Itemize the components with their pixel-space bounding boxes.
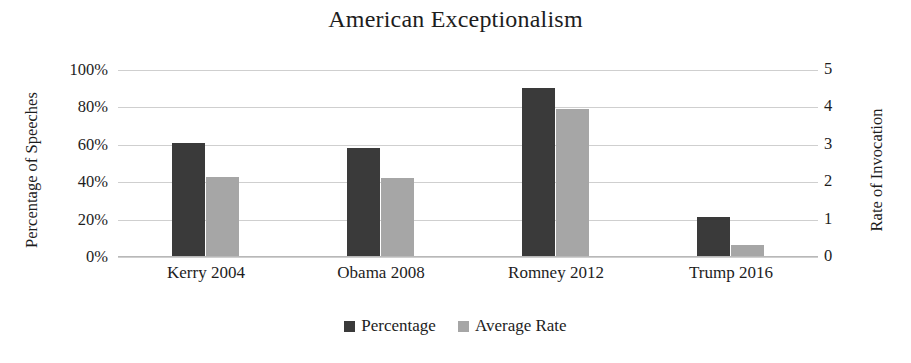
legend-item-label: Percentage (361, 316, 436, 336)
y-axis-right-tick-label: 5 (824, 61, 854, 78)
bar-average-rate (556, 109, 589, 257)
legend-item[interactable]: Percentage (344, 316, 436, 336)
x-axis-category-labels: Kerry 2004Obama 2008Romney 2012Trump 201… (118, 263, 818, 291)
bar-group (522, 70, 589, 257)
y-axis-right-tick-label: 3 (824, 136, 854, 153)
chart-legend: PercentageAverage Rate (0, 316, 911, 336)
y-axis-right-title: Rate of Invocation (867, 70, 887, 270)
square-marker-icon (458, 321, 469, 332)
bar-percentage (697, 217, 730, 257)
bar-group (697, 70, 764, 257)
y-axis-right-tick-label: 0 (824, 248, 854, 265)
bar-average-rate (206, 177, 239, 257)
x-axis-baseline (118, 256, 818, 257)
y-axis-left-tick-label: 60% (52, 137, 108, 154)
x-axis-category-label: Romney 2012 (471, 263, 641, 283)
y-axis-left-ticks: 0%20%40%60%80%100% (46, 70, 108, 257)
y-axis-right-ticks: 012345 (824, 70, 854, 257)
legend-item[interactable]: Average Rate (458, 316, 567, 336)
y-axis-left-tick-label: 100% (52, 62, 108, 79)
gridline (118, 257, 818, 258)
y-axis-right-tick-label: 1 (824, 211, 854, 228)
y-axis-right-tick-label: 2 (824, 173, 854, 190)
y-axis-left-tick-label: 80% (52, 99, 108, 116)
plot-area (118, 70, 818, 257)
y-axis-right-tick-label: 4 (824, 98, 854, 115)
bar-percentage (172, 143, 205, 257)
y-axis-left-title: Percentage of Speeches (22, 70, 42, 270)
chart-page: American Exceptionalism Percentage of Sp… (0, 0, 911, 363)
bar-average-rate (381, 178, 414, 257)
bar-group (172, 70, 239, 257)
bar-group (347, 70, 414, 257)
bar-percentage (347, 148, 380, 257)
x-axis-category-label: Kerry 2004 (121, 263, 291, 283)
chart-title: American Exceptionalism (0, 6, 911, 33)
y-axis-left-tick-label: 20% (52, 212, 108, 229)
x-axis-category-label: Obama 2008 (296, 263, 466, 283)
x-axis-category-label: Trump 2016 (646, 263, 816, 283)
legend-item-label: Average Rate (475, 316, 567, 336)
bar-percentage (522, 88, 555, 257)
square-marker-icon (344, 321, 355, 332)
y-axis-left-tick-label: 0% (52, 249, 108, 266)
y-axis-left-tick-label: 40% (52, 174, 108, 191)
